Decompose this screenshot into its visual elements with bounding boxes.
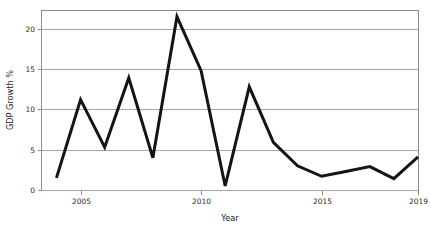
chart-container: 05101520 2005201020152019 Year GDP Growt… [0, 0, 431, 230]
x-axis-title: Year [220, 213, 239, 223]
x-tick-label-3: 2019 [409, 197, 428, 206]
x-tick-label-1: 2010 [192, 197, 211, 206]
y-axis-title: GDP Growth % [5, 70, 15, 130]
y-tick-label-3: 15 [26, 65, 36, 74]
y-tick-label-1: 5 [30, 146, 35, 155]
x-tick-label-2: 2015 [313, 197, 332, 206]
y-tick-label-0: 0 [30, 186, 35, 195]
y-tick-label-2: 10 [26, 105, 36, 114]
chart-background [0, 0, 431, 230]
gdp-growth-line-chart: 05101520 2005201020152019 Year GDP Growt… [0, 0, 431, 230]
x-tick-label-0: 2005 [72, 197, 91, 206]
y-tick-label-4: 20 [26, 25, 36, 34]
